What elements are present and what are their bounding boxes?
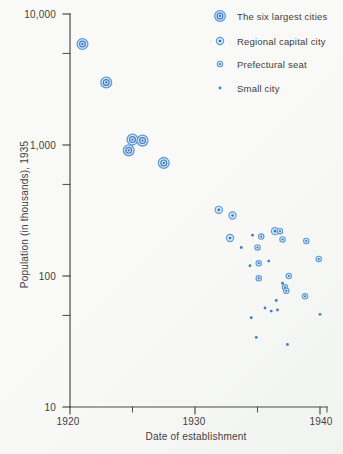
- data-point: [277, 228, 282, 233]
- y-tick-label-10: 10: [12, 402, 56, 413]
- legend-label: The six largest cities: [237, 11, 327, 22]
- legend-item-regional-capital-city: Regional capital city: [212, 33, 326, 49]
- data-point: [127, 134, 138, 145]
- series-small-city: [240, 234, 322, 346]
- x-tick-label-1930: 1930: [174, 416, 214, 427]
- data-point: [240, 246, 243, 249]
- six-largest-cities-marker-icon: [212, 8, 228, 24]
- data-point: [123, 145, 134, 156]
- data-point: [256, 276, 261, 281]
- data-point: [284, 288, 289, 293]
- data-point: [255, 245, 260, 250]
- data-point: [281, 282, 284, 285]
- data-point: [259, 234, 264, 239]
- legend-label: Regional capital city: [237, 36, 326, 47]
- data-point: [286, 273, 291, 278]
- regional-capital-marker-icon: [212, 33, 228, 49]
- data-point: [276, 309, 279, 312]
- data-point: [316, 256, 321, 261]
- data-point: [137, 135, 148, 146]
- prefectural-seat-marker-icon: [212, 56, 228, 72]
- data-point: [229, 212, 236, 219]
- x-axis-title: Date of establishment: [96, 431, 296, 442]
- series-prefectural-seat: [255, 228, 322, 299]
- data-point: [270, 310, 273, 313]
- data-point: [101, 77, 112, 88]
- data-point: [264, 307, 267, 310]
- data-point: [267, 260, 270, 263]
- y-axis-title: Population (in thousands), 1935: [19, 135, 30, 295]
- legend-item-six-largest-cities: The six largest cities: [212, 8, 327, 24]
- data-point: [319, 313, 322, 316]
- legend-item-small-city: Small city: [212, 80, 280, 96]
- y-tick-label-10000: 10,000: [12, 9, 56, 20]
- data-point: [250, 316, 253, 319]
- data-point: [249, 264, 252, 267]
- figure-page: 10,000 1,000 100 10 1920 1930 1940 Date …: [0, 0, 343, 454]
- data-point: [251, 234, 254, 237]
- legend-item-prefectural-seat: Prefectural seat: [212, 56, 307, 72]
- legend-label: Small city: [237, 83, 280, 94]
- x-tick-label-1940: 1940: [301, 416, 341, 427]
- data-point: [158, 158, 169, 169]
- data-point: [302, 294, 307, 299]
- axes: [63, 14, 327, 414]
- data-point: [255, 336, 258, 339]
- data-point: [226, 234, 233, 241]
- data-point: [304, 238, 309, 243]
- data-point: [77, 39, 88, 50]
- series-regional-capital-city: [215, 206, 278, 241]
- data-point: [286, 343, 289, 346]
- data-point: [275, 299, 278, 302]
- legend-label: Prefectural seat: [237, 59, 307, 70]
- data-point: [215, 206, 222, 213]
- small-city-marker-icon: [212, 80, 228, 96]
- series-the-six-largest-cities: [77, 39, 169, 169]
- x-tick-label-1920: 1920: [48, 416, 88, 427]
- data-point: [256, 261, 261, 266]
- data-point: [280, 237, 285, 242]
